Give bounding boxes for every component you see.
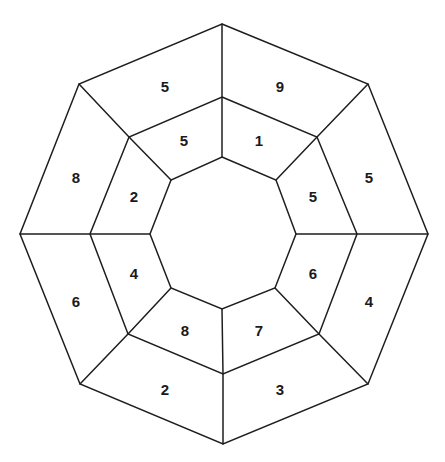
outer-cell-left-upper: 8 xyxy=(72,169,80,186)
octagon-number-diagram: 5 9 5 4 3 2 6 8 5 1 5 6 7 8 4 2 xyxy=(0,0,445,462)
outer-cell-right-upper: 5 xyxy=(365,169,373,186)
spoke-line xyxy=(80,288,171,384)
outer-cell-top-right: 9 xyxy=(276,78,284,95)
spoke-line xyxy=(275,288,368,384)
spoke-line xyxy=(222,309,223,444)
spoke-line xyxy=(79,84,171,180)
middle-cell-left-upper: 2 xyxy=(130,188,138,205)
outer-cell-left-lower: 6 xyxy=(72,293,80,310)
outer-cell-right-lower: 4 xyxy=(365,293,374,310)
radial-spokes xyxy=(20,24,428,444)
middle-cell-bottom-left: 8 xyxy=(181,322,189,339)
outer-cell-bottom-right: 3 xyxy=(276,381,284,398)
inner-octagon xyxy=(150,157,296,309)
outer-cell-bottom-left: 2 xyxy=(161,381,169,398)
spoke-line xyxy=(276,84,368,180)
middle-cell-bottom-right: 7 xyxy=(255,322,263,339)
middle-cell-right-lower: 6 xyxy=(309,265,317,282)
outer-cell-top-left: 5 xyxy=(161,78,169,95)
middle-cell-top-left: 5 xyxy=(180,132,188,149)
middle-cell-right-upper: 5 xyxy=(309,188,317,205)
middle-cell-left-lower: 4 xyxy=(130,265,139,282)
middle-cell-top-right: 1 xyxy=(255,132,263,149)
